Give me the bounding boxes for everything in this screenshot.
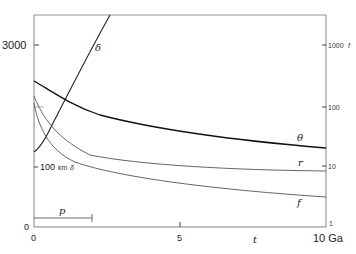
x-tick-10: 10 Ga: [313, 232, 344, 244]
series-r: [34, 96, 326, 171]
p-label: p: [59, 205, 66, 216]
annot-100: 100: [40, 162, 55, 172]
label-f: f: [296, 197, 303, 208]
series-theta: [34, 81, 326, 148]
annot-delta: δ: [70, 164, 74, 171]
r-tick-1: 1: [329, 220, 333, 227]
label-theta: θ: [297, 132, 303, 143]
x-tick-5: 5: [177, 233, 182, 243]
series-f: [34, 103, 326, 197]
annot-km: km: [58, 164, 68, 171]
label-delta: δ: [95, 42, 101, 53]
y-tick-0: 0: [24, 222, 29, 232]
x-axis-label: t: [253, 234, 258, 245]
r-tick-100: 100: [328, 104, 340, 111]
r-tick-10: 10: [328, 163, 336, 170]
y-tick-3000: 3000: [2, 39, 26, 51]
r-axis-label: f: [348, 42, 351, 49]
label-r: r: [298, 157, 304, 168]
x-tick-0: 0: [31, 233, 36, 243]
r-tick-1000: 1000: [328, 42, 344, 49]
chart: 3000 0 100 km δ 1000 f 100 10 1 0 5 10 G…: [0, 0, 356, 254]
series-delta: [34, 15, 110, 152]
